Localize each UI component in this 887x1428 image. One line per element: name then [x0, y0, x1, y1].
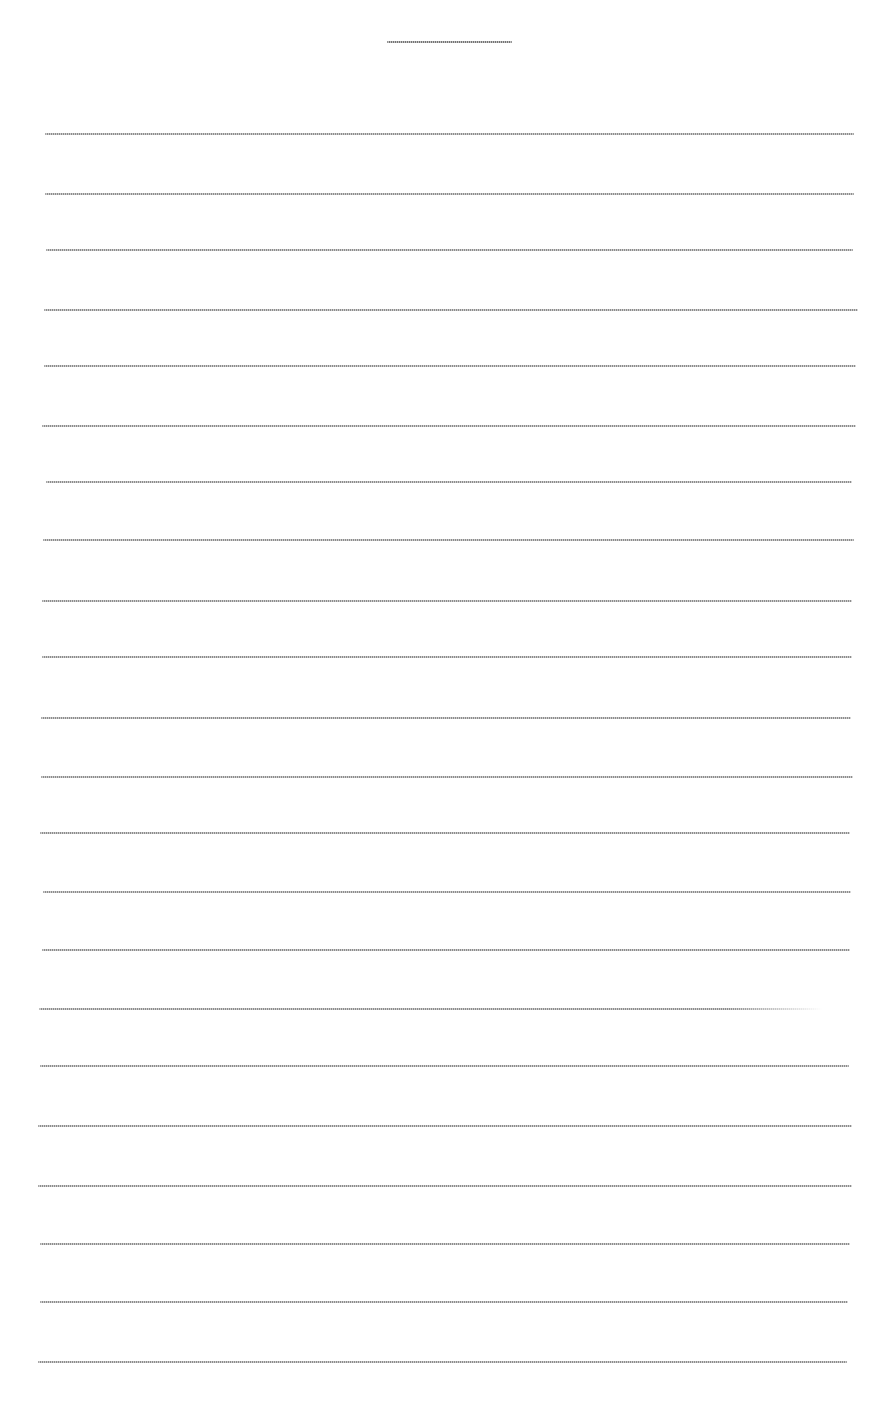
writing-line — [38, 1185, 852, 1187]
writing-line — [40, 1065, 849, 1067]
writing-line — [46, 249, 853, 251]
writing-line — [38, 1125, 852, 1127]
writing-line — [42, 425, 856, 427]
writing-line — [41, 717, 851, 719]
writing-line — [40, 832, 850, 834]
writing-line — [42, 600, 852, 602]
writing-line — [40, 1301, 848, 1303]
writing-line — [42, 656, 852, 658]
writing-line — [38, 1361, 847, 1363]
title-line — [387, 41, 512, 43]
writing-line — [43, 891, 851, 893]
writing-line — [42, 949, 850, 951]
writing-line — [44, 365, 856, 367]
writing-line — [39, 1008, 822, 1010]
writing-line — [45, 193, 854, 195]
writing-line — [43, 539, 854, 541]
writing-line — [45, 133, 854, 135]
writing-line — [44, 309, 858, 311]
writing-line — [46, 481, 852, 483]
writing-line — [40, 1243, 850, 1245]
lined-paper-page — [0, 0, 887, 1428]
writing-line — [41, 776, 853, 778]
